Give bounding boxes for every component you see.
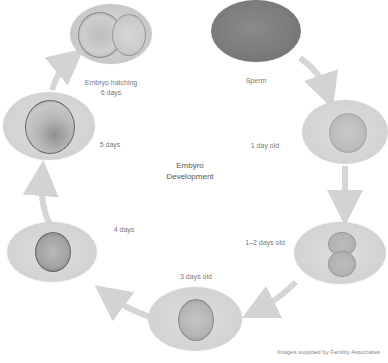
zygote-cell — [329, 113, 367, 153]
stage-day4-image — [7, 222, 97, 282]
embryo-development-diagram: Embryo hatching 6 days Sperm 1 day old 1… — [0, 0, 388, 363]
hatching-embryo-bulge — [112, 14, 146, 56]
morula-embryo — [35, 232, 71, 272]
stage-sperm-image — [211, 0, 301, 62]
label-day3: 3 days old — [176, 272, 216, 282]
label-day4: 4 days — [112, 225, 136, 235]
stage-day5-image — [3, 92, 95, 160]
label-sperm: Sperm — [236, 76, 276, 86]
arrow-sperm-to-day1 — [300, 58, 327, 92]
label-day1-2: 1–2 days old — [237, 238, 293, 248]
arrow-day1-2-to-day3 — [258, 282, 296, 310]
stage-day1-image — [302, 100, 388, 164]
stage-day3-image — [148, 287, 242, 351]
label-day1: 1 day old — [245, 141, 285, 151]
blastocyst-embryo — [25, 100, 75, 154]
arrow-day3-to-day4 — [109, 296, 150, 317]
two-cell-bottom — [328, 251, 356, 277]
arrow-day4-to-day5 — [42, 178, 50, 225]
label-day6: Embryo hatching 6 days — [80, 78, 142, 98]
diagram-title: Embyro Development — [150, 160, 230, 182]
multi-cell-embryo — [178, 299, 214, 341]
arrow-day5-to-day6 — [52, 60, 70, 90]
stage-day1-2-image — [294, 222, 386, 284]
stage-embryo-hatching-image — [70, 4, 152, 64]
image-credit: Images supplied by Fertility Associates — [277, 349, 380, 355]
label-day5: 5 days — [98, 140, 122, 150]
